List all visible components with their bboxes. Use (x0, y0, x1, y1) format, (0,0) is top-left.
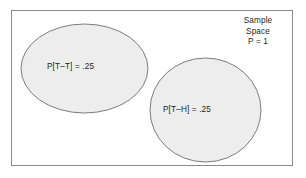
event-th-label: P[T–H] = .25 (163, 105, 211, 116)
venn-diagram-figure: P[T–T] = .25 P[T–H] = .25 Sample Space P… (0, 0, 306, 178)
event-tt-label: P[T–T] = .25 (47, 62, 94, 73)
sample-space-label: Sample Space P = 1 (228, 16, 288, 48)
sample-space-label-line-3: P = 1 (228, 37, 288, 48)
sample-space-label-line-2: Space (228, 27, 288, 38)
sample-space-label-line-1: Sample (228, 16, 288, 27)
